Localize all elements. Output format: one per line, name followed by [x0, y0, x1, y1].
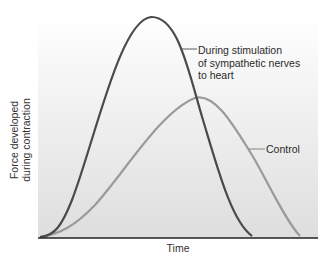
sympathetic-annotation-line3: to heart [198, 69, 300, 82]
y-axis-label-line1: Force developed [8, 98, 20, 181]
sympathetic-annotation-line2: of sympathetic nerves [198, 57, 300, 70]
sympathetic-annotation: During stimulation of sympathetic nerves… [198, 44, 300, 82]
chart-canvas [0, 0, 329, 258]
y-axis-label: Force developed during contraction [8, 98, 32, 181]
sympathetic-annotation-line1: During stimulation [198, 44, 300, 57]
x-axis-label: Time [167, 242, 190, 254]
y-axis-label-line2: during contraction [20, 98, 32, 181]
control-annotation: Control [266, 143, 300, 156]
